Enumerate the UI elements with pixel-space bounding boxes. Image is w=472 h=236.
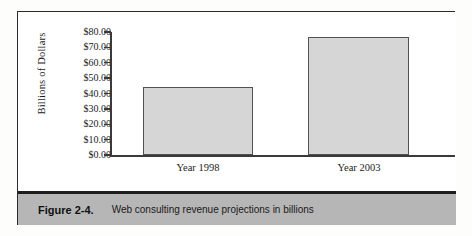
figure-number-label: Figure 2-4. <box>38 204 94 216</box>
category-label-2: Year 2003 <box>296 162 422 173</box>
bar-2 <box>308 37 409 155</box>
figure-frame: Billions of Dollars $0.00$10.00$20.00$30… <box>17 11 455 225</box>
bar-1 <box>143 87 253 155</box>
figure-caption-band: Figure 2-4. Web consulting revenue proje… <box>18 191 456 225</box>
y-axis-line <box>110 32 112 156</box>
figure-caption-inner: Figure 2-4. Web consulting revenue proje… <box>18 194 456 225</box>
figure-caption-text: Web consulting revenue projections in bi… <box>112 204 314 215</box>
chart-plot-area: Billions of Dollars $0.00$10.00$20.00$30… <box>18 12 456 191</box>
page-background: Billions of Dollars $0.00$10.00$20.00$30… <box>0 0 472 236</box>
y-axis-tick-labels: $0.00$10.00$20.00$30.00$40.00$50.00$60.0… <box>64 33 111 163</box>
category-label-1: Year 1998 <box>131 162 265 173</box>
x-axis-line <box>110 155 455 157</box>
y-axis-title: Billions of Dollars <box>36 24 47 124</box>
